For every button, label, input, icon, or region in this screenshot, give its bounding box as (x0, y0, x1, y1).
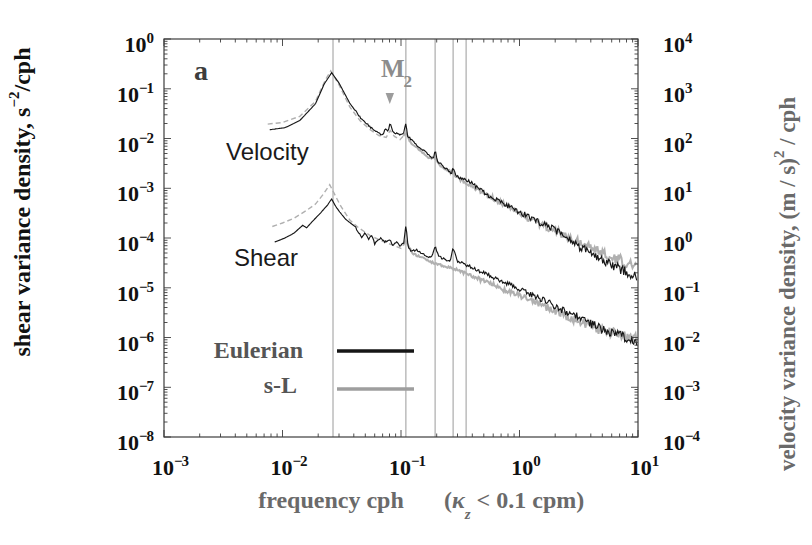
y-right-tick-label: 10−2 (663, 325, 699, 357)
legend-label-sl: s-L (150, 372, 297, 399)
x-tick-label: 10−2 (249, 449, 329, 481)
panel-label: a (194, 55, 208, 87)
series-shear-s-L-lowfreq (272, 185, 403, 249)
spectra-figure: a Velocity Shear M2 Eulerian s-L frequen… (0, 0, 812, 545)
m2-subscript: 2 (404, 72, 413, 91)
y-left-tick-label: 10−1 (83, 76, 153, 108)
x-axis-title: frequency cph (258, 487, 404, 514)
y-left-tick-label: 10−5 (83, 275, 153, 307)
x-tick-label: 10−1 (367, 449, 447, 481)
y-right-tick-label: 103 (663, 76, 692, 108)
y-right-tick-label: 101 (663, 175, 692, 207)
right-axis-title-sup: 2 (771, 151, 787, 159)
right-axis-title-text: velocity variance density, (m / s) (775, 158, 800, 471)
m2-text: M (381, 55, 405, 82)
y-left-tick-label: 10−3 (83, 175, 153, 207)
vertical-gridlines (333, 39, 466, 437)
x-tick-label: 101 (604, 449, 684, 481)
right-axis-title: velocity variance density, (m / s)2 / cp… (773, 97, 801, 471)
legend-label-eulerian: Eulerian (150, 337, 303, 364)
x-tick-label: 10−3 (130, 449, 210, 481)
series-velocity-s-L (404, 134, 637, 269)
y-right-tick-label: 100 (663, 225, 692, 257)
x-note-open: ( (444, 487, 452, 513)
kappa-symbol: κ (452, 487, 465, 513)
y-right-tick-label: 10−3 (663, 374, 699, 406)
velocity-group-label: Velocity (226, 138, 309, 166)
x-note-rest: < 0.1 cpm) (471, 487, 585, 513)
left-axis-title-text: shear variance density, s (9, 108, 35, 357)
y-left-tick-label: 10−2 (83, 126, 153, 158)
y-right-tick-label: 104 (663, 26, 692, 58)
y-left-tick-label: 10−6 (83, 325, 153, 357)
y-left-tick-label: 100 (83, 26, 153, 58)
y-left-tick-label: 10−4 (83, 225, 153, 257)
left-axis-title-sup: −2 (6, 92, 22, 108)
y-left-tick-label: 10−7 (83, 374, 153, 406)
m2-annotation: M2 (381, 55, 413, 88)
shear-group-label: Shear (234, 244, 298, 272)
x-axis-note: (κz < 0.1 cpm) (444, 487, 584, 518)
kappa-subscript: z (465, 506, 471, 522)
left-axis-title: shear variance density, s−2/cph (8, 48, 36, 357)
right-axis-title-suffix: / cph (775, 97, 800, 151)
y-right-tick-label: 10−1 (663, 275, 699, 307)
left-axis-title-suffix: /cph (9, 48, 35, 92)
m2-arrow-icon (386, 93, 394, 104)
spectra-curves (268, 71, 637, 346)
x-tick-label: 100 (486, 449, 566, 481)
y-right-tick-label: 102 (663, 126, 692, 158)
